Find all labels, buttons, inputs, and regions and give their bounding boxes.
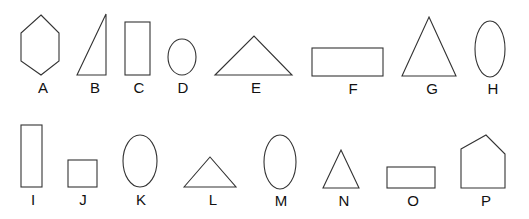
shape-label: K: [136, 191, 146, 208]
shapes-diagram: ABCDEFGHIJKLMNOP: [0, 0, 529, 219]
shape-c: C: [125, 22, 150, 96]
shape-label: J: [79, 191, 87, 208]
ellipse-outline: [123, 135, 157, 187]
shape-e: E: [215, 36, 292, 96]
shape-label: I: [31, 191, 35, 208]
shape-g: G: [402, 17, 456, 97]
shape-i: I: [21, 125, 42, 208]
shape-label: M: [275, 192, 288, 209]
shape-label: A: [38, 79, 48, 96]
shape-l: L: [184, 157, 236, 208]
shape-h: H: [475, 21, 505, 97]
rectangle-outline: [387, 167, 435, 188]
shape-k: K: [123, 135, 157, 208]
shape-o: O: [387, 167, 435, 209]
rectangle-outline: [125, 22, 150, 75]
shape-j: J: [68, 160, 97, 208]
shape-m: M: [264, 135, 296, 209]
triangle-outline: [402, 17, 456, 76]
shape-label: C: [134, 79, 145, 96]
triangle-outline: [323, 150, 359, 188]
ellipse-outline: [168, 39, 196, 75]
shape-label: L: [209, 191, 217, 208]
shape-d: D: [168, 39, 196, 96]
ellipse-outline: [475, 21, 505, 77]
shape-n: N: [323, 150, 359, 209]
triangle-outline: [215, 36, 292, 75]
rectangle-outline: [312, 48, 383, 76]
shape-label: O: [407, 192, 419, 209]
square-outline: [68, 160, 97, 187]
shape-label: N: [339, 192, 350, 209]
hexagon-outline: [21, 15, 59, 75]
right-triangle-outline: [77, 14, 106, 75]
shape-b: B: [77, 14, 106, 96]
shape-label: D: [178, 79, 189, 96]
ellipse-outline: [264, 135, 296, 189]
shape-p: P: [461, 135, 505, 209]
triangle-outline: [184, 157, 236, 187]
shape-label: F: [348, 80, 357, 97]
shape-label: E: [251, 79, 261, 96]
shape-label: P: [481, 192, 491, 209]
shape-label: B: [90, 79, 100, 96]
shape-label: G: [426, 80, 438, 97]
shape-a: A: [21, 15, 59, 96]
pentagon-outline: [461, 135, 505, 188]
shape-f: F: [312, 48, 383, 97]
rectangle-outline: [21, 125, 42, 187]
shape-label: H: [488, 80, 499, 97]
